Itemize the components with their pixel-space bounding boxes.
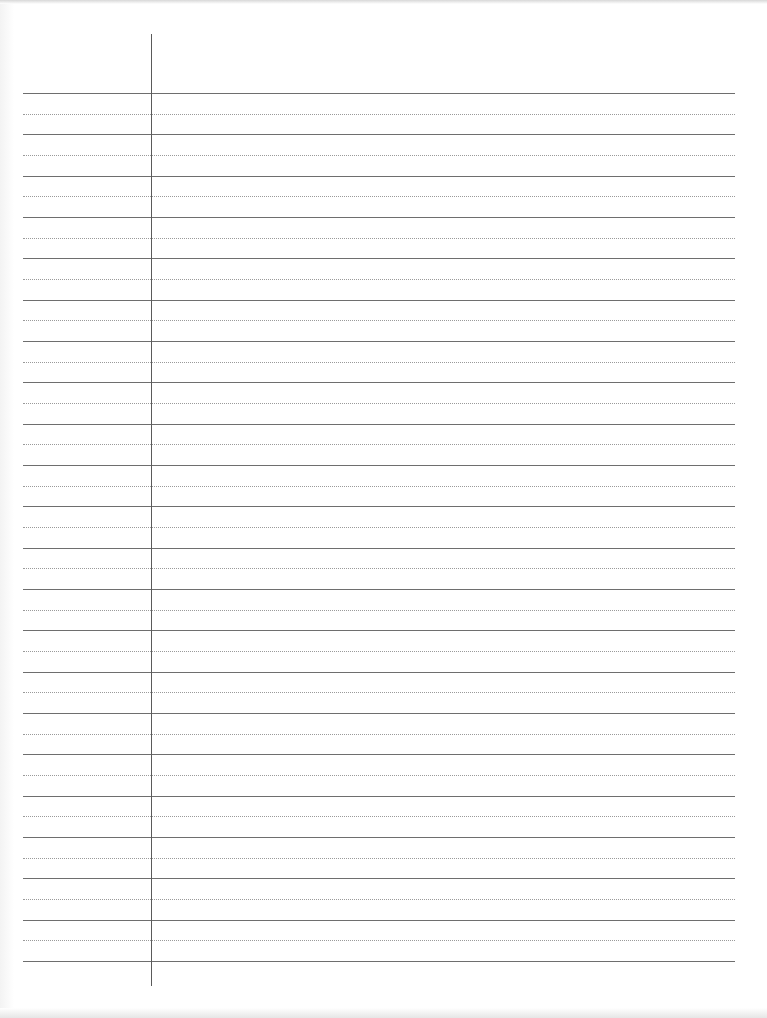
margin-line <box>151 34 152 986</box>
dotted-guide-rule <box>23 362 735 363</box>
solid-rule <box>23 93 735 94</box>
page-bottom-edge <box>0 1008 767 1018</box>
dotted-guide-rule <box>23 610 735 611</box>
dotted-guide-rule <box>23 816 735 817</box>
solid-rule <box>23 548 735 549</box>
solid-rule <box>23 713 735 714</box>
dotted-guide-rule <box>23 651 735 652</box>
page-top-edge <box>0 0 767 4</box>
solid-rule <box>23 217 735 218</box>
ruled-paper-page <box>0 0 767 1018</box>
dotted-guide-rule <box>23 320 735 321</box>
dotted-guide-rule <box>23 858 735 859</box>
solid-rule <box>23 630 735 631</box>
solid-rule <box>23 465 735 466</box>
dotted-guide-rule <box>23 692 735 693</box>
solid-rule <box>23 258 735 259</box>
dotted-guide-rule <box>23 444 735 445</box>
solid-rule <box>23 300 735 301</box>
solid-rule <box>23 589 735 590</box>
dotted-guide-rule <box>23 734 735 735</box>
dotted-guide-rule <box>23 899 735 900</box>
dotted-guide-rule <box>23 279 735 280</box>
solid-rule <box>23 424 735 425</box>
solid-rule <box>23 796 735 797</box>
solid-rule <box>23 754 735 755</box>
dotted-guide-rule <box>23 568 735 569</box>
solid-rule <box>23 176 735 177</box>
solid-rule <box>23 961 735 962</box>
dotted-guide-rule <box>23 403 735 404</box>
solid-rule <box>23 382 735 383</box>
solid-rule <box>23 878 735 879</box>
solid-rule <box>23 134 735 135</box>
solid-rule <box>23 672 735 673</box>
dotted-guide-rule <box>23 196 735 197</box>
solid-rule <box>23 341 735 342</box>
dotted-guide-rule <box>23 238 735 239</box>
solid-rule <box>23 506 735 507</box>
solid-rule <box>23 837 735 838</box>
dotted-guide-rule <box>23 527 735 528</box>
solid-rule <box>23 920 735 921</box>
dotted-guide-rule <box>23 486 735 487</box>
dotted-guide-rule <box>23 775 735 776</box>
dotted-guide-rule <box>23 155 735 156</box>
dotted-guide-rule <box>23 940 735 941</box>
dotted-guide-rule <box>23 114 735 115</box>
